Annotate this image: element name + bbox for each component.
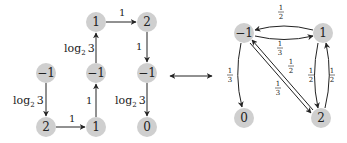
edge-label-a-b: log23 (13, 94, 44, 109)
node-2-f: 2 (137, 12, 157, 32)
node-1-e: 1 (86, 12, 106, 32)
svg-text:1: 1 (278, 40, 282, 48)
svg-text:2: 2 (42, 120, 50, 134)
node-neg1-g: −1 (137, 63, 157, 83)
svg-text:1: 1 (330, 67, 334, 75)
svg-text:1: 1 (92, 120, 100, 134)
edge-label-m1-p1: 1 3 (277, 40, 283, 57)
svg-text:2: 2 (330, 76, 334, 84)
svg-text:1: 1 (279, 4, 283, 12)
svg-text:2: 2 (279, 13, 283, 21)
svg-text:1: 1 (319, 26, 327, 40)
node-0: 0 (234, 108, 254, 128)
svg-text:−1: −1 (87, 66, 105, 80)
edge-label-p1-m1: 1 2 (278, 4, 284, 21)
left-graph: log23 1 1 log23 1 1 log23 −1 2 1 −1 1 2 … (13, 7, 157, 137)
node-neg1-a: −1 (36, 63, 56, 83)
svg-text:−1: −1 (235, 26, 253, 40)
right-graph: 1 2 1 3 1 3 1 2 1 3 1 2 1 (227, 4, 335, 128)
node-1: 1 (313, 23, 333, 43)
svg-text:2: 2 (309, 76, 313, 84)
edge-t2-p1 (325, 43, 329, 108)
node-2: 2 (311, 108, 331, 128)
svg-text:3: 3 (276, 89, 280, 97)
edge-label-e-f: 1 (119, 7, 125, 18)
svg-text:0: 0 (240, 111, 248, 125)
svg-text:3: 3 (278, 49, 282, 57)
edge-label-t2-m1: 1 2 (288, 58, 294, 75)
graph-equivalence-diagram: log23 1 1 log23 1 1 log23 −1 2 1 −1 1 2 … (0, 0, 347, 143)
node-neg1: −1 (234, 23, 254, 43)
node-2-b: 2 (36, 117, 56, 137)
svg-text:1: 1 (276, 80, 280, 88)
node-1-c: 1 (86, 117, 106, 137)
edge-label-c-d: 1 (86, 95, 92, 106)
edge-label-f-g: 1 (136, 41, 142, 52)
svg-text:2: 2 (289, 67, 293, 75)
svg-text:2: 2 (143, 15, 151, 29)
edge-label-p1-t2: 1 2 (308, 67, 314, 84)
edge-label-d-e: log23 (64, 42, 95, 57)
edge-label-t2-p1: 1 2 (329, 67, 335, 84)
svg-text:1: 1 (92, 15, 100, 29)
node-0-h: 0 (137, 117, 157, 137)
svg-text:1: 1 (289, 58, 293, 66)
edge-m1-p1 (255, 36, 313, 40)
edge-label-b-c: 1 (69, 113, 75, 124)
svg-text:0: 0 (143, 120, 151, 134)
svg-text:1: 1 (228, 67, 232, 75)
edge-label-g-h: log23 (115, 94, 146, 109)
svg-text:−1: −1 (37, 66, 55, 80)
svg-text:3: 3 (228, 76, 232, 84)
svg-text:−1: −1 (138, 66, 156, 80)
edge-label-m1-t2: 1 3 (275, 80, 281, 97)
edge-p1-m1 (255, 26, 313, 30)
edge-t2-m1 (252, 40, 313, 110)
svg-text:1: 1 (309, 67, 313, 75)
edge-p1-t2 (315, 43, 319, 108)
node-neg1-d: −1 (86, 63, 106, 83)
edge-m1-z0 (238, 43, 242, 107)
svg-text:2: 2 (317, 111, 325, 125)
edge-label-m1-z0: 1 3 (227, 67, 233, 84)
